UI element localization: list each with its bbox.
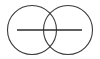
figure-container [0,0,100,59]
venn-diagram-figure [0,0,100,59]
